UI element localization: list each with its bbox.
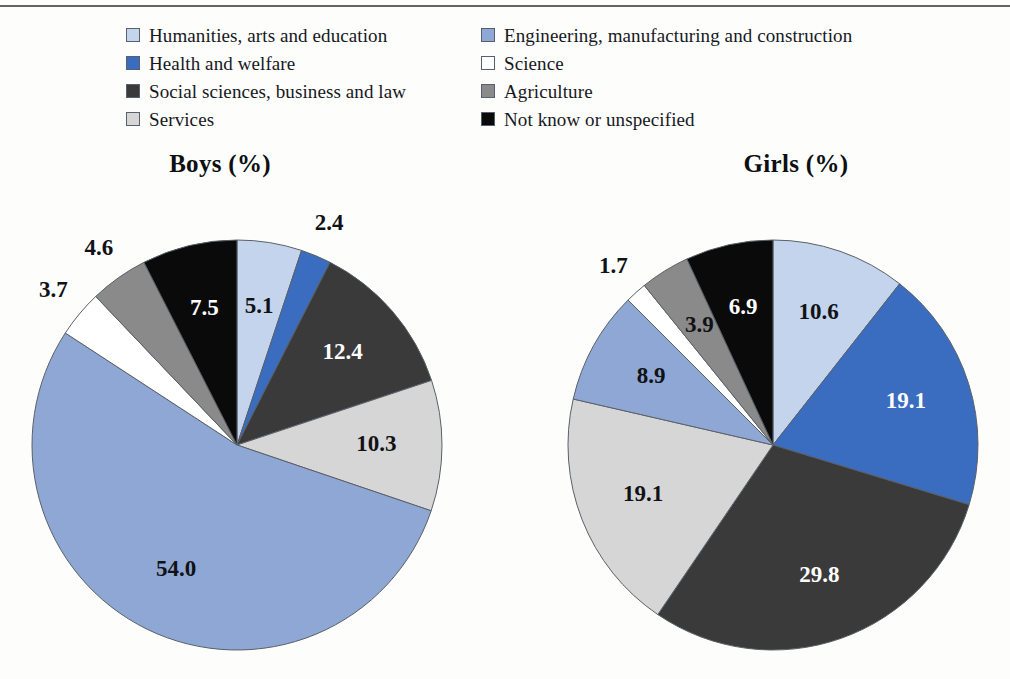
legend-item-label: Social sciences, business and law	[149, 82, 406, 101]
swatch-social	[126, 84, 140, 98]
pie-svg: 10.619.129.819.18.91.73.96.9	[520, 195, 1010, 675]
pie-slice-value-label: 1.7	[599, 253, 628, 278]
legend-item-label: Health and welfare	[149, 54, 295, 73]
legend-item[interactable]: Services	[126, 106, 406, 132]
legend-item[interactable]: Not know or unspecified	[481, 106, 852, 132]
pie-slice-value-label: 19.1	[886, 388, 926, 413]
legend-item[interactable]: Humanities, arts and education	[126, 22, 406, 48]
pie-canvas-girls: 10.619.129.819.18.91.73.96.9	[520, 195, 1010, 675]
legend-item[interactable]: Health and welfare	[126, 50, 406, 76]
swatch-not-known	[481, 112, 495, 126]
legend-item-label: Agriculture	[504, 82, 593, 101]
swatch-science	[481, 56, 495, 70]
pie-slice-value-label: 7.5	[190, 295, 219, 320]
figure-root: Humanities, arts and educationHealth and…	[0, 0, 1010, 679]
charts-row: Boys (%) 5.12.412.410.354.03.74.67.5 Gir…	[0, 150, 1010, 679]
legend-item-label: Humanities, arts and education	[149, 26, 387, 45]
pie-slice-value-label: 8.9	[637, 363, 666, 388]
pie-svg: 5.12.412.410.354.03.74.67.5	[0, 195, 490, 675]
legend-item-label: Services	[149, 110, 214, 129]
top-rule	[0, 5, 1010, 7]
pie-slice-value-label: 54.0	[156, 556, 196, 581]
pie-slice-value-label: 10.3	[356, 431, 396, 456]
legend-item[interactable]: Engineering, manufacturing and construct…	[481, 22, 852, 48]
pie-slice-value-label: 3.9	[685, 312, 714, 337]
pie-slice-value-label: 6.9	[729, 294, 758, 319]
swatch-agriculture	[481, 84, 495, 98]
pie-slice-value-label: 10.6	[798, 299, 838, 324]
chart-title-girls: Girls (%)	[551, 150, 1010, 178]
legend-item[interactable]: Agriculture	[481, 78, 852, 104]
pie-chart-girls: Girls (%) 10.619.129.819.18.91.73.96.9	[520, 150, 1010, 679]
pie-canvas-boys: 5.12.412.410.354.03.74.67.5	[0, 195, 490, 675]
pie-slice-value-label: 19.1	[623, 481, 663, 506]
pie-chart-boys: Boys (%) 5.12.412.410.354.03.74.67.5	[0, 150, 490, 679]
chart-legend: Humanities, arts and educationHealth and…	[0, 22, 1010, 142]
pie-slice-value-label: 12.4	[323, 339, 364, 364]
swatch-humanities	[126, 28, 140, 42]
chart-title-boys: Boys (%)	[0, 150, 465, 178]
pie-slice-value-label: 3.7	[39, 277, 68, 302]
swatch-engineering	[481, 28, 495, 42]
legend-item-label: Not know or unspecified	[504, 110, 695, 129]
swatch-services	[126, 112, 140, 126]
pie-slice-value-label: 2.4	[315, 210, 344, 235]
pie-slice-value-label: 5.1	[245, 293, 274, 318]
legend-item[interactable]: Social sciences, business and law	[126, 78, 406, 104]
legend-column-right: Engineering, manufacturing and construct…	[481, 22, 852, 134]
pie-slice-value-label: 29.8	[799, 562, 839, 587]
legend-column-left: Humanities, arts and educationHealth and…	[126, 22, 406, 134]
legend-item[interactable]: Science	[481, 50, 852, 76]
legend-item-label: Science	[504, 54, 564, 73]
legend-item-label: Engineering, manufacturing and construct…	[504, 26, 852, 45]
pie-slice-value-label: 4.6	[85, 235, 114, 260]
swatch-health	[126, 56, 140, 70]
